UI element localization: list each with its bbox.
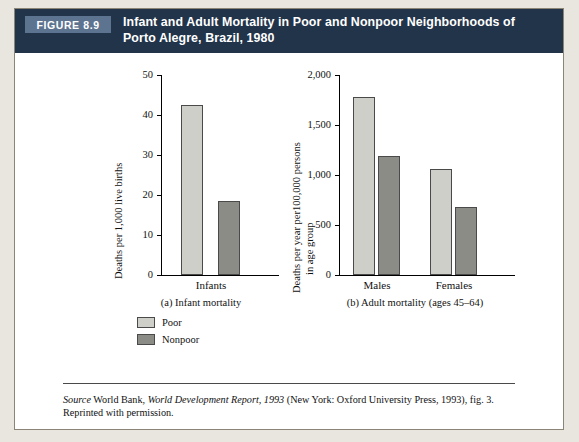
y-tick-a-10: [157, 235, 161, 236]
chart-panel-adult-mortality: Deaths per year per100,000 persons in ag…: [283, 71, 543, 303]
y-ticklabel-b-1500: 1,500: [297, 119, 331, 130]
panel-caption-a: (a) Infant mortality: [121, 297, 281, 308]
legend-item-nonpoor: Nonpoor: [137, 332, 199, 346]
y-ticklabel-a-10: 10: [133, 229, 153, 240]
charts-container: Deaths per 1,000 live births 0 10 20 30 …: [15, 53, 563, 303]
bar-males-poor: [353, 97, 375, 275]
legend-label-poor: Poor: [162, 317, 182, 328]
figure-body: Deaths per 1,000 live births 0 10 20 30 …: [15, 53, 563, 431]
y-tick-b-500: [335, 225, 339, 226]
y-ticklabel-b-2000: 2,000: [297, 69, 331, 80]
chart-panel-infant-mortality: Deaths per 1,000 live births 0 10 20 30 …: [105, 71, 285, 303]
y-tick-a-30: [157, 155, 161, 156]
y-tick-b-1500: [335, 125, 339, 126]
panel-caption-b: (b) Adult mortality (ages 45–64): [305, 297, 525, 308]
x-group-label-females: Females: [418, 279, 490, 291]
legend-swatch-poor: [137, 317, 155, 328]
source-divider: [63, 383, 515, 384]
y-ticklabel-a-50: 50: [133, 69, 153, 80]
y-ticklabel-a-30: 30: [133, 149, 153, 160]
y-tick-a-50: [157, 75, 161, 76]
y-ticklabel-b-1000: 1,000: [297, 169, 331, 180]
source-line2: Reprinted with permission.: [63, 406, 533, 419]
x-group-label-infants: Infants: [171, 279, 251, 291]
y-axis-a: [161, 75, 162, 275]
y-ticklabel-a-20: 20: [133, 189, 153, 200]
y-ticklabel-a-40: 40: [133, 109, 153, 120]
y-tick-b-2000: [335, 75, 339, 76]
y-axis-b: [339, 75, 340, 275]
y-tick-b-1000: [335, 175, 339, 176]
y-tick-b-0: [335, 275, 339, 276]
y-ticklabel-b-0: 0: [297, 269, 331, 280]
figure-frame: FIGURE 8.9 Infant and Adult Mortality in…: [14, 8, 564, 430]
y-tick-a-40: [157, 115, 161, 116]
legend-label-nonpoor: Nonpoor: [162, 334, 199, 345]
bar-infants-nonpoor: [218, 201, 240, 275]
x-axis-b: [339, 275, 515, 276]
y-ticklabel-a-0: 0: [133, 269, 153, 280]
page-background: FIGURE 8.9 Infant and Adult Mortality in…: [0, 0, 579, 442]
figure-title: Infant and Adult Mortality in Poor and N…: [123, 14, 549, 46]
x-axis-a: [161, 275, 279, 276]
bar-females-poor: [430, 169, 452, 275]
y-axis-label-a: Deaths per 1,000 live births: [113, 163, 124, 279]
x-group-label-males: Males: [341, 279, 413, 291]
source-report-title: World Development Report, 1993: [148, 394, 285, 405]
y-tick-a-20: [157, 195, 161, 196]
y-ticklabel-b-500: 500: [297, 219, 331, 230]
legend-item-poor: Poor: [137, 315, 199, 329]
figure-header: FIGURE 8.9 Infant and Adult Mortality in…: [15, 9, 563, 53]
legend: Poor Nonpoor: [137, 315, 199, 349]
source-prefix: Source: [63, 394, 91, 405]
bar-females-nonpoor: [455, 207, 477, 275]
bar-males-nonpoor: [378, 156, 400, 275]
bar-infants-poor: [181, 105, 203, 275]
y-tick-a-0: [157, 275, 161, 276]
legend-swatch-nonpoor: [137, 334, 155, 345]
source-text: World Bank,: [91, 394, 148, 405]
source-rest: (New York: Oxford University Press, 1993…: [284, 394, 494, 405]
source-note: Source World Bank, World Development Rep…: [63, 393, 533, 419]
y-axis-label-b-line2: in age group: [304, 223, 315, 276]
figure-number-badge: FIGURE 8.9: [25, 16, 111, 33]
